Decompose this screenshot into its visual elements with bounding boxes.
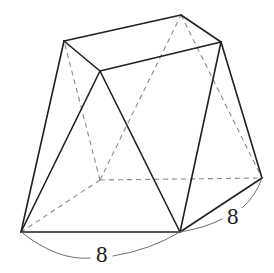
hidden-edge-bottom-back-to-top-back	[100, 15, 181, 180]
lateral-edge-bottom-left-to-top-left	[21, 41, 64, 232]
hidden-edge-bottom-back-to-bottom-right	[100, 178, 262, 180]
hidden-edge-top-back-to-bottom-right	[181, 15, 262, 178]
lateral-edge-bottom-front-to-top-right	[180, 42, 221, 232]
measure-arc-front-left-segment	[21, 232, 90, 258]
bottom-edge-front-to-right	[180, 178, 262, 232]
geometry-figure: 8 8	[0, 0, 274, 273]
dimension-label-right-edge: 8	[224, 205, 242, 228]
dimension-label-front-edge: 8	[93, 243, 111, 266]
top-edge-back-to-right	[181, 15, 221, 42]
lateral-edge-top-right-to-bottom-right	[221, 42, 262, 178]
top-edge-left-to-back	[64, 15, 181, 41]
hidden-edge-bottom-back-to-top-left	[64, 41, 100, 180]
measure-arc-right-lower-segment	[180, 219, 222, 232]
lateral-edge-bottom-left-to-top-front	[21, 71, 100, 232]
hidden-edges-group	[21, 15, 262, 232]
top-edge-front-to-left	[64, 41, 100, 71]
solid-edges-group	[21, 15, 262, 232]
top-edge-right-to-front	[100, 42, 221, 71]
lateral-edge-top-front-to-bottom-front	[100, 71, 180, 232]
measure-arc-front-right-segment	[113, 232, 180, 256]
hidden-edge-bottom-back-to-bottom-left	[21, 180, 100, 232]
measure-arc-right-upper-segment	[242, 178, 262, 208]
polyhedron-drawing	[0, 0, 274, 273]
